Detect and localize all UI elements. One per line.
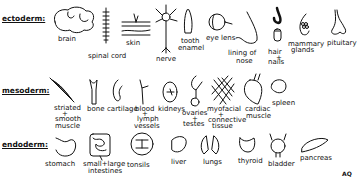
label-stomach: stomach [45,161,75,168]
label-eye-lens: eye lens [206,35,235,42]
label-lungs: lungs [203,159,222,166]
layer-heading-endoderm: endoderm: [2,140,48,149]
ovaries-testes-icon [191,76,202,106]
lungs-icon [201,136,219,154]
label-thyroid: thyroid [238,158,263,165]
signature: AQ [342,170,352,177]
nose-icon [236,12,257,43]
eye-icon [209,14,232,30]
bone-icon [90,80,97,104]
nerve-icon [156,5,177,53]
brain-icon [54,7,93,33]
cartilage-icon [113,80,122,101]
label-enamel: enamel [178,45,204,52]
spinal-cord-icon [103,8,109,43]
intestines-icon [90,134,110,160]
label-bladder: bladder [268,161,295,168]
muscle-icon [50,78,74,102]
label-spleen: spleen [272,100,295,107]
tooth-icon [184,10,192,33]
layer-heading-mesoderm: mesoderm: [2,86,50,95]
label-skin: skin [126,40,140,47]
bladder-icon [270,134,286,157]
label-cartilage: cartilage [107,106,138,113]
label-bone: bone [87,106,104,113]
label-muscle: muscle [246,113,271,120]
connective-tissue-icon [212,76,234,104]
tonsils-icon [131,133,153,155]
label-tonsils: tonsils [127,162,150,169]
label-muscle: muscle [55,123,80,130]
label-myofacial: myofacial [207,106,241,113]
label-pancreas: pancreas [300,155,332,162]
label-nerve: nerve [156,56,176,63]
label-glands: glands [291,47,314,54]
label-nails: nails [268,59,284,66]
label-intestines: intestines [88,168,122,175]
label-vessels: vessels [134,123,160,130]
hair-nails-icon [274,8,281,41]
label-kidneys: kidneys [158,106,185,113]
layer-heading-ectoderm: ectoderm: [2,14,45,23]
label-spinal-cord: spinal cord [88,53,126,60]
skin-icon [122,14,150,35]
label-pituitary: pituitary [327,40,357,47]
mammary-gland-icon [300,14,309,35]
thyroid-icon [239,138,254,152]
label-tissue: tissue [212,123,233,130]
label-liver: liver [171,159,186,166]
heart-icon [244,74,261,104]
spleen-icon [271,80,286,93]
kidney-icon [163,82,177,102]
liver-icon [172,137,186,152]
pancreas-icon [302,138,328,152]
stomach-icon [56,138,76,156]
label-lining-of: lining of [228,50,256,57]
label-nose: nose [236,58,253,65]
label-testes: testes [183,121,204,128]
blood-vessel-icon [140,80,148,104]
pituitary-icon [332,10,346,34]
label-brain: brain [58,36,76,43]
